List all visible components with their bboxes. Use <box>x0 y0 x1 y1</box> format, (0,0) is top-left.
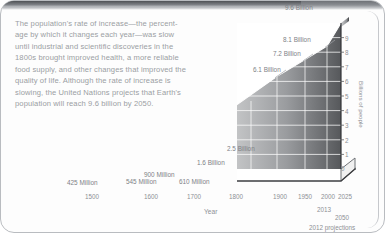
annotation-year-2013: 2013 <box>317 206 331 213</box>
y-tick-label-2: 2 <box>345 137 355 144</box>
y-axis-title: Billions of people <box>358 81 365 128</box>
x-tick-label-1900: 1900 <box>273 193 287 200</box>
data-label-545-million: 545 Million <box>126 178 157 185</box>
x-tick-label-1600: 1600 <box>144 193 158 200</box>
x-tick-label-2025: 2025 <box>338 193 352 200</box>
data-label-900-million: 900 Million <box>144 171 175 178</box>
x-axis-title: Year <box>204 208 217 215</box>
x-tick-label-1800: 1800 <box>229 193 243 200</box>
x-tick-label-1950: 1950 <box>298 193 312 200</box>
data-label-2-5-billion: 2.5 Billion <box>227 145 255 152</box>
page-top-bleed-band-dark <box>1 1 301 7</box>
data-label-610-million: 610 Million <box>179 178 210 185</box>
x-tick-label-2000: 2000 <box>321 193 335 200</box>
data-label-6-1-billion: 6.1 Billion <box>253 66 281 73</box>
annotation-projection-note: 2012 projections <box>309 224 355 231</box>
data-label-425-million: 425 Million <box>67 179 98 186</box>
figure-body-text: The population's rate of increase—the pe… <box>15 18 240 110</box>
x-tick-label-1500: 1500 <box>85 193 99 200</box>
data-label-8-1-billion: 8.1 Billion <box>283 36 311 43</box>
annotation-year-2050: 2050 <box>335 214 349 221</box>
x-tick-label-1700: 1700 <box>187 193 201 200</box>
population-area-top-ribbon <box>341 17 349 27</box>
y-tick-label-3: 3 <box>345 122 355 129</box>
y-tick-label-4: 4 <box>345 108 355 115</box>
data-label-7-2-billion: 7.2 Billion <box>273 50 301 57</box>
y-tick-label-0: 0 <box>341 165 351 172</box>
y-tick-label-6: 6 <box>345 78 355 85</box>
figure-frame: The population's rate of increase—the pe… <box>0 0 385 233</box>
y-tick-label-5: 5 <box>345 93 355 100</box>
y-tick-label-7: 7 <box>345 64 355 71</box>
population-growth-chart: 1 2 3 4 5 6 7 8 9 0 Billions of people 9… <box>237 9 379 224</box>
data-label-9-6-billion: 9.6 Billion <box>285 4 313 11</box>
y-tick-label-1: 1 <box>345 151 355 158</box>
data-label-1-6-billion: 1.6 Billion <box>197 159 225 166</box>
y-tick-label-8: 8 <box>345 49 355 56</box>
y-tick-label-9: 9 <box>345 35 355 42</box>
